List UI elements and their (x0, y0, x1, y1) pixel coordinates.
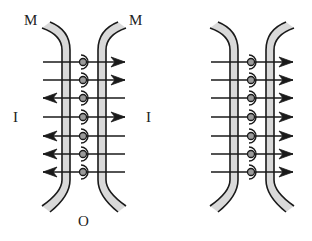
particle-dot (80, 77, 87, 84)
particle-dot (248, 59, 255, 66)
particle-dot (248, 169, 255, 176)
membrane-diagram (0, 0, 312, 241)
particle-dot (248, 95, 255, 102)
particle-dot (80, 114, 87, 121)
particle-dot (248, 114, 255, 121)
particle-dot (80, 95, 87, 102)
particle-dot (80, 59, 87, 66)
particle-dot (248, 77, 255, 84)
left-diagram (42, 22, 126, 212)
particle-dot (80, 169, 87, 176)
right-diagram (210, 22, 294, 212)
particle-dot (80, 133, 87, 140)
particle-dot (80, 151, 87, 158)
particle-dot (248, 151, 255, 158)
particle-dot (248, 133, 255, 140)
